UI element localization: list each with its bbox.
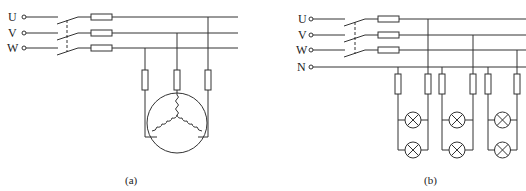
phase-label-w: W	[7, 42, 18, 54]
lamp-icon	[405, 142, 421, 158]
caption-b: (b)	[424, 174, 437, 186]
lamp-icon	[495, 112, 511, 128]
circuit-diagrams	[0, 0, 526, 191]
phase-label-u: U	[8, 11, 17, 23]
terminal-w-icon	[22, 46, 26, 50]
lamp-icon	[495, 142, 511, 158]
phase-label-v: V	[8, 27, 17, 39]
terminal-w-icon	[309, 48, 313, 52]
terminal-v-icon	[22, 31, 26, 35]
lamp-icon	[449, 142, 465, 158]
branch-fuses-icon	[142, 70, 211, 90]
terminal-u-icon	[309, 17, 313, 21]
panel-a-diagram	[22, 14, 238, 153]
lamp-group-2	[442, 94, 473, 158]
terminal-v-icon	[309, 33, 313, 37]
three-pole-switch-icon	[344, 19, 365, 57]
line-fuses-icon	[91, 14, 112, 51]
lamp-group-1	[398, 94, 428, 158]
lamp-icon	[449, 112, 465, 128]
phase-label-w: W	[296, 44, 307, 56]
motor-icon	[147, 93, 207, 153]
caption-a: (a)	[125, 174, 137, 186]
lamp-icon	[405, 112, 421, 128]
three-pole-switch-icon	[57, 17, 78, 55]
terminal-n-icon	[309, 65, 313, 69]
lamp-group-3	[488, 94, 517, 158]
phase-label-n: N	[297, 61, 306, 73]
phase-label-u: U	[298, 13, 307, 25]
branch-fuses-icon	[395, 74, 520, 94]
panel-b-diagram	[309, 16, 526, 158]
phase-label-v: V	[298, 29, 307, 41]
line-fuses-icon	[378, 16, 399, 53]
terminal-u-icon	[22, 15, 26, 19]
